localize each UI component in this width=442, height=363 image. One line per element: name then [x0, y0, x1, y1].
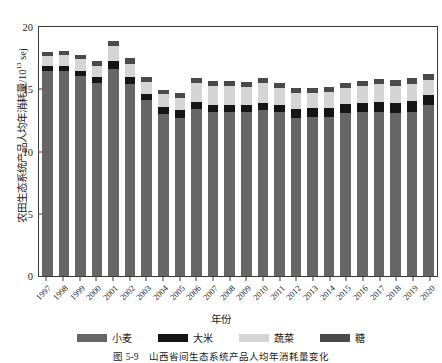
legend-item[interactable]: 大米	[158, 330, 213, 345]
bar-group	[205, 27, 222, 276]
bar-segment-大米	[208, 105, 219, 112]
bar-segment-小麦	[42, 71, 53, 276]
bar-segment-蔬菜	[307, 93, 318, 108]
stacked-bar[interactable]	[108, 41, 119, 276]
bar-group	[122, 27, 139, 276]
stacked-bar[interactable]	[340, 83, 351, 276]
legend-item[interactable]: 小麦	[77, 330, 132, 345]
bar-segment-蔬菜	[423, 80, 434, 95]
bar-segment-小麦	[357, 112, 368, 276]
stacked-bar[interactable]	[324, 87, 335, 276]
x-axis-tick-mark	[46, 277, 47, 281]
plot-area: 05101520	[38, 26, 438, 277]
bar-segment-小麦	[125, 84, 136, 276]
bar-segment-蔬菜	[224, 86, 235, 105]
bar-segment-大米	[191, 102, 202, 109]
stacked-bar[interactable]	[75, 55, 86, 276]
stacked-bar[interactable]	[59, 51, 70, 276]
x-axis-tick-label: 2006	[184, 283, 203, 302]
bar-segment-小麦	[92, 83, 103, 276]
bar-group	[404, 27, 421, 276]
bar-group	[72, 27, 89, 276]
bar-segment-小麦	[374, 112, 385, 276]
bar-segment-蔬菜	[92, 66, 103, 78]
bar-segment-蔬菜	[291, 93, 302, 109]
bar-segment-蔬菜	[191, 83, 202, 102]
bar-segment-蔬菜	[108, 46, 119, 61]
x-axis-tick-label: 1999	[68, 283, 87, 302]
x-axis-tick-mark	[163, 277, 164, 281]
bar-group	[138, 27, 155, 276]
bar-group	[337, 27, 354, 276]
bar-segment-蔬菜	[175, 98, 186, 111]
y-axis-title: 农田生态系统产品人均年消耗量/1013 sej	[14, 11, 29, 261]
legend-item[interactable]: 糖	[320, 330, 365, 345]
stacked-bar[interactable]	[241, 82, 252, 276]
stacked-bar[interactable]	[158, 90, 169, 276]
x-axis-tick-mark	[413, 277, 414, 281]
x-axis-tick-mark	[113, 277, 114, 281]
bar-segment-蔬菜	[274, 88, 285, 104]
x-axis-tick-label: 2005	[168, 283, 187, 302]
stacked-bar[interactable]	[191, 78, 202, 276]
bar-segment-大米	[407, 101, 418, 111]
x-axis-tick-mark	[363, 277, 364, 281]
x-axis-tick-mark	[346, 277, 347, 281]
x-axis-tick-label: 2003	[134, 283, 153, 302]
x-axis-tick-label: 2017	[368, 283, 387, 302]
bar-segment-蔬菜	[59, 55, 70, 66]
x-axis-tick-label: 2004	[151, 283, 170, 302]
bar-group	[89, 27, 106, 276]
y-axis-title-unit: sej	[17, 48, 28, 62]
figure-caption: 图 5-9山西省间生态系统产品人均年消耗量变化	[0, 349, 442, 363]
stacked-bar[interactable]	[423, 74, 434, 276]
x-axis-tick-label: 1998	[51, 283, 70, 302]
legend-label: 糖	[355, 330, 365, 345]
x-axis-tick-label: 2013	[301, 283, 320, 302]
stacked-bar[interactable]	[208, 81, 219, 276]
bar-segment-小麦	[307, 117, 318, 276]
legend-item[interactable]: 蔬菜	[239, 330, 294, 345]
bar-segment-蔬菜	[158, 94, 169, 107]
stacked-bar[interactable]	[141, 77, 152, 276]
y-axis-tick-label: 10	[23, 146, 40, 157]
bar-segment-蔬菜	[340, 88, 351, 104]
legend-swatch	[77, 334, 107, 342]
bar-group	[387, 27, 404, 276]
stacked-bar[interactable]	[374, 79, 385, 276]
stacked-bar[interactable]	[407, 78, 418, 277]
x-axis-tick-mark	[329, 277, 330, 281]
chart-legend: 小麦大米蔬菜糖	[0, 330, 442, 345]
bar-segment-小麦	[423, 105, 434, 276]
bar-segment-小麦	[390, 113, 401, 276]
bar-segment-大米	[258, 103, 269, 111]
stacked-bar[interactable]	[175, 93, 186, 276]
stacked-bar[interactable]	[125, 58, 136, 276]
x-axis-tick-label: 2018	[384, 283, 403, 302]
bar-segment-蔬菜	[241, 87, 252, 105]
bar-segment-蔬菜	[208, 86, 219, 105]
bar-segment-大米	[390, 103, 401, 113]
x-axis-tick-label: 2014	[318, 283, 337, 302]
stacked-bar[interactable]	[274, 83, 285, 276]
bar-group	[188, 27, 205, 276]
stacked-bar[interactable]	[307, 88, 318, 276]
stacked-bar[interactable]	[92, 61, 103, 276]
bar-segment-蔬菜	[42, 56, 53, 65]
x-axis-tick-mark	[313, 277, 314, 281]
figure-caption-text: 山西省间生态系统产品人均年消耗量变化	[149, 352, 329, 362]
stacked-bar[interactable]	[390, 80, 401, 276]
stacked-bar[interactable]	[258, 78, 269, 276]
bar-segment-小麦	[407, 112, 418, 276]
stacked-bar[interactable]	[357, 81, 368, 276]
stacked-bar[interactable]	[224, 81, 235, 276]
bar-segment-大米	[357, 103, 368, 112]
bar-group	[155, 27, 172, 276]
stacked-bar[interactable]	[291, 88, 302, 276]
bar-segment-蔬菜	[75, 59, 86, 71]
x-axis-tick-mark	[396, 277, 397, 281]
stacked-bar[interactable]	[42, 52, 53, 276]
bar-group	[354, 27, 371, 276]
legend-label: 大米	[193, 330, 213, 345]
